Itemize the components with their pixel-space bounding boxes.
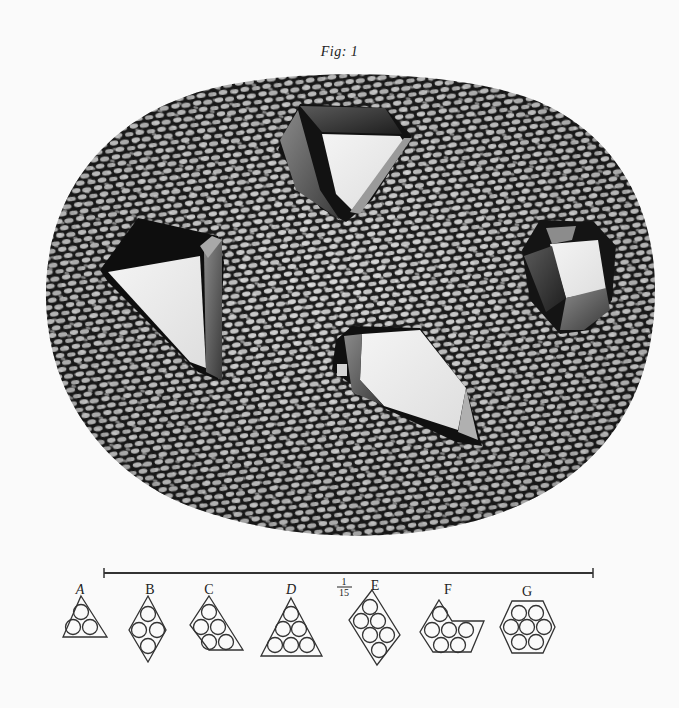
label-a: A xyxy=(75,582,85,597)
packing-diagram-a: A xyxy=(63,582,107,637)
packing-diagram-c: C xyxy=(190,582,243,650)
packing-diagram-f: F xyxy=(420,582,484,653)
fraction-numerator: 1 xyxy=(342,576,347,587)
packing-diagram-g: G xyxy=(500,584,555,653)
engraved-plate: Fig: 1 xyxy=(0,0,679,708)
label-d: D xyxy=(285,582,296,597)
scale-bar xyxy=(104,568,593,578)
fraction-denominator: 15 xyxy=(339,587,349,598)
packing-diagram-b: B xyxy=(129,582,166,662)
label-c: C xyxy=(204,582,213,597)
label-g: G xyxy=(522,584,532,599)
scale-fraction: 1 15 xyxy=(337,576,352,598)
packing-diagram-d: D xyxy=(261,582,322,656)
packing-diagram-e: E xyxy=(349,578,400,665)
label-b: B xyxy=(145,582,154,597)
plate-illustration: 1 15 A B C xyxy=(0,0,679,708)
label-f: F xyxy=(444,582,452,597)
